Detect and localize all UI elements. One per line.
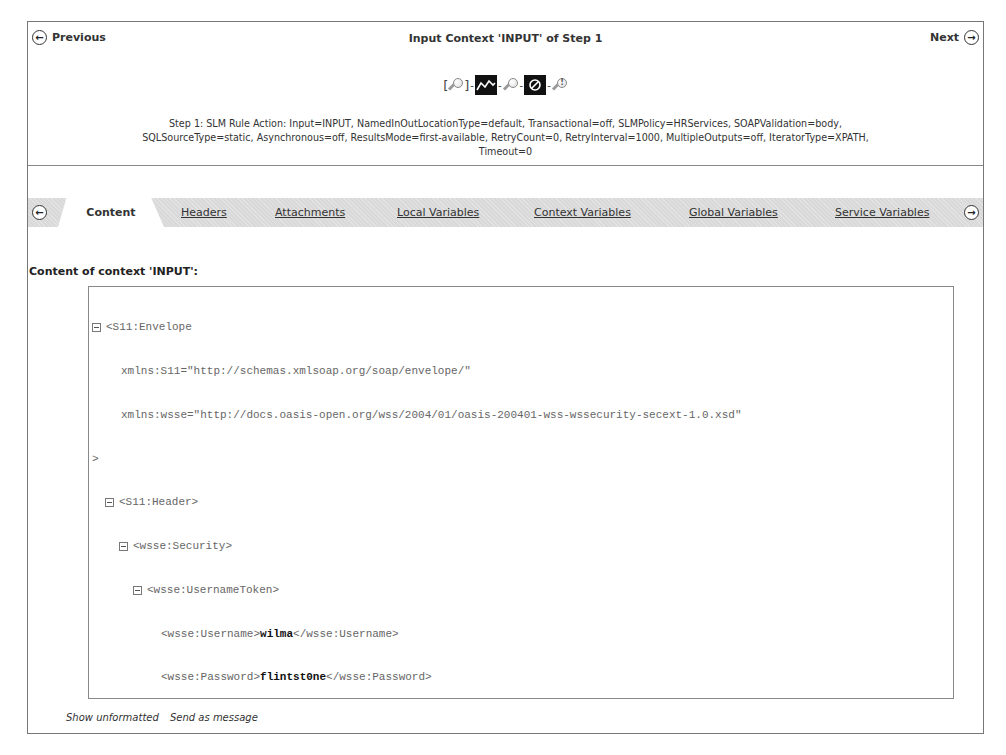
collapse-toggle-icon[interactable]: [119, 542, 128, 551]
close-bracket: ]: [464, 78, 469, 93]
next-label: Next: [930, 31, 959, 44]
graph-icon[interactable]: [475, 75, 497, 95]
step-description-line: Step 1: SLM Rule Action: Input=INPUT, Na…: [30, 117, 981, 131]
xml-line: <wsse:Username>wilma</wsse:Username>: [92, 627, 953, 642]
magnifier-icon[interactable]: [503, 77, 519, 93]
separator: -: [498, 80, 502, 91]
xml-line: xmlns:S11="http://schemas.xmlsoap.org/so…: [92, 364, 953, 379]
tabs-scroll-left-icon[interactable]: ←: [32, 205, 47, 220]
password-value: flintst0ne: [260, 670, 326, 685]
collapse-toggle-icon[interactable]: [133, 586, 142, 595]
xml-line: xmlns:wsse="http://docs.oasis-open.org/w…: [92, 408, 953, 423]
xml-line: <wsse:UsernameToken>: [92, 583, 953, 598]
divider: [28, 165, 983, 166]
step-description-line: SQLSourceType=static, Asynchronous=off, …: [30, 131, 981, 145]
tab-service-variables[interactable]: Service Variables: [835, 206, 929, 219]
next-button[interactable]: Next →: [930, 30, 979, 45]
header-nav: ← Previous Input Context 'INPUT' of Step…: [28, 30, 983, 52]
tab-content[interactable]: Content: [58, 198, 164, 227]
xml-line: >: [92, 452, 953, 467]
xml-content-viewer[interactable]: <S11:Envelope xmlns:S11="http://schemas.…: [88, 286, 954, 699]
xml-line: <wsse:Password>flintst0ne</wsse:Password…: [92, 670, 953, 685]
footer-links: Show unformatted Send as message: [66, 712, 266, 723]
view-icon-toolbar: [ ] - - - - !: [28, 74, 983, 96]
magnifier-alert-icon[interactable]: !: [552, 77, 568, 93]
send-as-message-link[interactable]: Send as message: [170, 712, 258, 723]
page-title: Input Context 'INPUT' of Step 1: [28, 32, 983, 45]
separator: -: [470, 80, 474, 91]
step-context-panel: ← Previous Input Context 'INPUT' of Step…: [27, 21, 984, 734]
xml-line: <S11:Envelope: [92, 320, 953, 335]
tab-attachments[interactable]: Attachments: [275, 206, 345, 219]
tabs-scroll-right-icon[interactable]: →: [964, 205, 979, 220]
separator: -: [520, 80, 524, 91]
show-unformatted-link[interactable]: Show unformatted: [66, 712, 159, 723]
xml-line: <S11:Header>: [92, 495, 953, 510]
tab-global-variables[interactable]: Global Variables: [689, 206, 778, 219]
step-description: Step 1: SLM Rule Action: Input=INPUT, Na…: [28, 117, 983, 159]
tab-context-variables[interactable]: Context Variables: [534, 206, 631, 219]
no-entry-icon[interactable]: [524, 75, 546, 95]
collapse-toggle-icon[interactable]: [105, 498, 114, 507]
arrow-right-circle-icon: →: [964, 30, 979, 45]
collapse-toggle-icon[interactable]: [92, 323, 101, 332]
step-description-line: Timeout=0: [30, 145, 981, 159]
tab-headers[interactable]: Headers: [181, 206, 227, 219]
content-heading: Content of context 'INPUT':: [29, 265, 198, 278]
separator: -: [547, 80, 551, 91]
xml-line: <wsse:Security>: [92, 539, 953, 554]
tab-local-variables[interactable]: Local Variables: [397, 206, 479, 219]
context-tab-bar: ← Content Headers Attachments Local Vari…: [28, 198, 983, 227]
username-value: wilma: [260, 627, 293, 642]
magnifier-icon[interactable]: [448, 77, 464, 93]
